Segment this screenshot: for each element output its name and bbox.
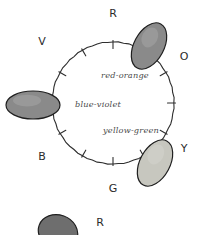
- next-figure-letter-R: R: [96, 216, 104, 229]
- hue-letter-G: G: [109, 182, 118, 195]
- hue-letter-R: R: [109, 7, 117, 20]
- hue-blob-highlight-blue-violet: [13, 95, 41, 107]
- caption-red-orange: red-orange: [101, 70, 149, 80]
- caption-yellow-green: yellow-green: [102, 125, 159, 135]
- hue-letter-B: B: [38, 150, 46, 163]
- hue-letter-O: O: [180, 50, 189, 63]
- caption-blue-violet: blue-violet: [75, 99, 121, 109]
- hue-letter-V: V: [38, 35, 46, 48]
- color-wheel-figure: red-orangeblue-violetyellow-green ROYGBV…: [0, 0, 200, 235]
- hue-letter-Y: Y: [180, 142, 188, 155]
- color-wheel-svg: red-orangeblue-violetyellow-green ROYGBV…: [0, 0, 200, 235]
